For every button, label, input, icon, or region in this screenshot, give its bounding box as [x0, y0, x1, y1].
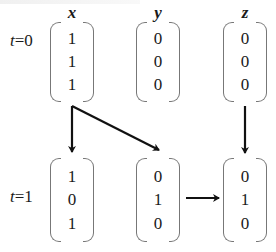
- arrow-x0-to-y1: [72, 106, 159, 150]
- dependency-arrows: [0, 0, 276, 252]
